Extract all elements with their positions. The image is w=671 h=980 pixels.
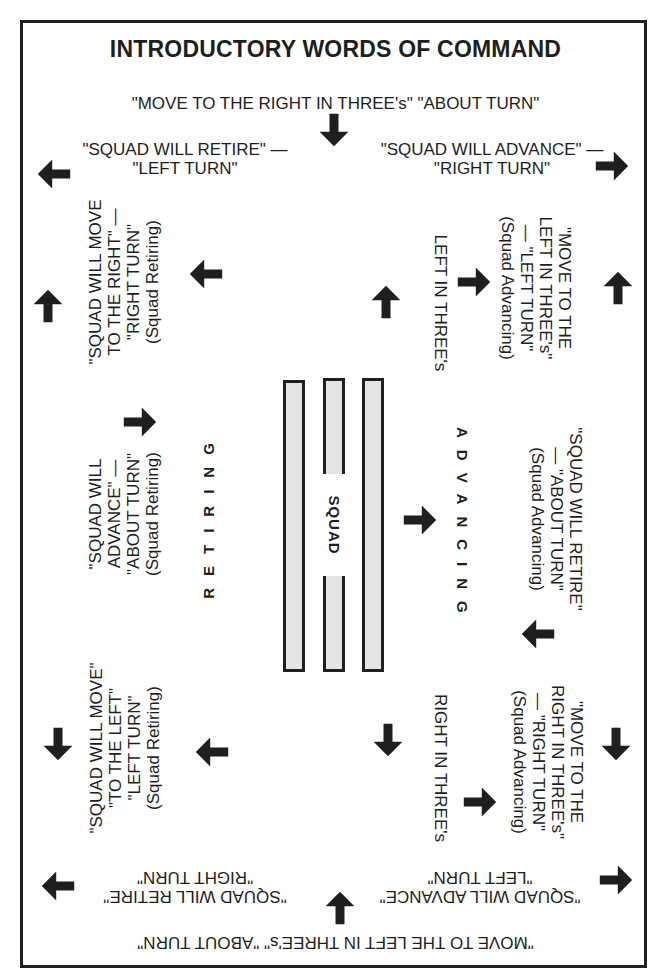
left-lower-line1: "SQUAD WILL MOVE" (87, 653, 106, 843)
top-left-line2: "LEFT TURN" (40, 159, 330, 178)
right-lower-line4: (Squad Advancing) (510, 662, 529, 862)
right-upper-line3: — "LEFT TURN" (517, 188, 536, 388)
arrow-left-icon (36, 156, 72, 192)
left-lower-line3: "LEFT TURN" (125, 653, 144, 843)
arrow-right-icon (594, 148, 630, 184)
arrow-left-icon (188, 256, 224, 292)
bottom-right-command: "SQUAD WILL ADVANCE" "LEFT TURN" (350, 868, 610, 906)
arrow-right-icon (456, 264, 492, 300)
left-upper-line1: "SQUAD WILL MOVE (86, 182, 105, 382)
arrow-left-icon (194, 734, 230, 770)
arrow-left-icon (40, 868, 76, 904)
arrow-down-icon (370, 722, 406, 758)
left-lower-line2: "TO THE LEFT" (106, 653, 125, 843)
arrow-right-icon (462, 784, 498, 820)
left-upper-line2: TO THE RIGHT" — (105, 182, 124, 382)
arrow-up-icon (368, 284, 404, 320)
squad-rank-right (362, 378, 384, 672)
right-middle-line1: "SQUAD WILL RETIRE" (566, 419, 585, 619)
squad-label: SQUAD (325, 485, 343, 565)
arrow-left-icon (520, 616, 556, 652)
arrow-up-icon (30, 288, 66, 324)
right-in-threes-label: RIGHT IN THREE's (430, 678, 450, 858)
left-lower-line4: (Squad Retiring) (144, 653, 163, 843)
left-middle-line1: "SQUAD WILL (86, 424, 105, 604)
squad-rank-center-bottom (323, 576, 345, 672)
arrow-right-icon (402, 502, 438, 538)
arrow-up-icon (600, 270, 636, 306)
right-upper-line4: (Squad Advancing) (498, 188, 517, 388)
bottom-left-line2: "RIGHT TURN" (60, 868, 330, 887)
bottom-left-line1: "SQUAD WILL RETIRE" (60, 887, 330, 906)
left-in-threes-label: LEFT IN THREE's (430, 223, 450, 383)
top-left-command: "SQUAD WILL RETIRE" — "LEFT TURN" (40, 140, 330, 178)
right-middle-command: "SQUAD WILL RETIRE" — "ABOUT TURN" (Squa… (527, 419, 585, 619)
arrow-down-icon (316, 112, 352, 148)
left-middle-line4: (Squad Retiring) (143, 424, 162, 604)
right-lower-line2: RIGHT IN THREE's" (548, 662, 567, 862)
right-upper-line2: LEFT IN THREE's" (536, 188, 555, 388)
retiring-label: RETIRING (200, 425, 220, 605)
squad-rank-center-top (323, 378, 345, 474)
right-middle-line2: — "ABOUT TURN" (547, 419, 566, 619)
arrow-up-icon (322, 890, 358, 926)
bottom-right-line1: "SQUAD WILL ADVANCE" (350, 887, 610, 906)
left-middle-line2: ADVANCE" — (105, 424, 124, 604)
arrow-right-icon (598, 862, 634, 898)
left-upper-line4: (Squad Retiring) (143, 182, 162, 382)
top-right-command: "SQUAD WILL ADVANCE" — "RIGHT TURN" (352, 140, 632, 178)
top-right-line2: "RIGHT TURN" (352, 159, 632, 178)
right-upper-command: "MOVE TO THE LEFT IN THREE's" — "LEFT TU… (498, 188, 574, 388)
right-lower-line1: "MOVE TO THE (567, 662, 586, 862)
left-upper-command: "SQUAD WILL MOVE TO THE RIGHT" — "RIGHT … (86, 182, 162, 382)
top-main-command: "MOVE TO THE RIGHT IN THREE's" "ABOUT TU… (0, 94, 671, 113)
advancing-label: ADVANCING (451, 427, 471, 617)
right-lower-command: "MOVE TO THE RIGHT IN THREE's" — "RIGHT … (510, 662, 586, 862)
left-middle-command: "SQUAD WILL ADVANCE" — "ABOUT TURN" (Squ… (86, 424, 162, 604)
bottom-right-line2: "LEFT TURN" (350, 868, 610, 887)
left-upper-line3: "RIGHT TURN" (124, 182, 143, 382)
left-lower-command: "SQUAD WILL MOVE" "TO THE LEFT" "LEFT TU… (87, 653, 163, 843)
arrow-down-icon (40, 726, 76, 762)
top-right-line1: "SQUAD WILL ADVANCE" — (352, 140, 632, 159)
left-middle-line3: "ABOUT TURN" (124, 424, 143, 604)
squad-rank-left (283, 380, 305, 672)
top-left-line1: "SQUAD WILL RETIRE" — (40, 140, 330, 159)
arrow-down-icon (598, 726, 634, 762)
right-middle-line3: (Squad Advancing) (528, 419, 547, 619)
arrow-right-icon (122, 404, 158, 440)
right-upper-line1: "MOVE TO THE (555, 188, 574, 388)
right-lower-line3: — "RIGHT TURN" (529, 662, 548, 862)
diagram-title: INTRODUCTORY WORDS OF COMMAND (0, 36, 671, 63)
bottom-left-command: "SQUAD WILL RETIRE" "RIGHT TURN" (60, 868, 330, 906)
bottom-main-command: "MOVE TO THE LEFT IN THREE's" "ABOUT TUR… (0, 933, 671, 952)
